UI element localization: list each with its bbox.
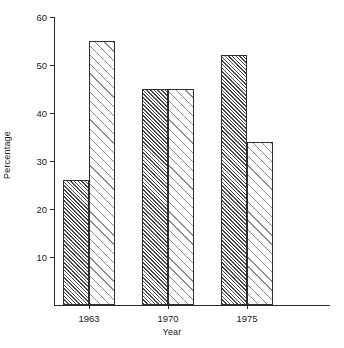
bar [63,180,89,305]
y-tick-mark [50,209,54,210]
bar [168,89,194,305]
bar [221,55,247,305]
x-tick-label: 1975 [236,313,257,324]
x-axis-line [54,305,330,306]
x-tick-label: 1970 [157,313,178,324]
y-axis-label: Percentage [0,0,14,310]
plot-area: 605040302010 196319701975 [54,17,330,305]
x-tick-label: 1963 [78,313,99,324]
x-tick-mark [89,305,90,309]
bar [89,41,115,305]
y-tick-label: 40 [36,108,47,119]
bar [142,89,168,305]
y-tick-mark [50,257,54,258]
bar [247,142,273,305]
x-tick-mark [247,305,248,309]
y-tick-label: 30 [36,156,47,167]
y-tick-mark [50,113,54,114]
bar-chart-figure: Percentage 605040302010 196319701975 Yea… [0,0,344,348]
y-tick-label: 20 [36,204,47,215]
y-axis-line [54,17,55,305]
x-axis-label: Year [0,327,344,337]
y-tick-label: 10 [36,252,47,263]
x-tick-mark [168,305,169,309]
y-tick-mark [50,17,54,18]
y-tick-label: 60 [36,12,47,23]
y-axis-label-text: Percentage [2,131,12,179]
x-axis-label-text: Year [163,327,182,337]
y-tick-label: 50 [36,60,47,71]
y-tick-mark [50,65,54,66]
y-tick-mark [50,161,54,162]
